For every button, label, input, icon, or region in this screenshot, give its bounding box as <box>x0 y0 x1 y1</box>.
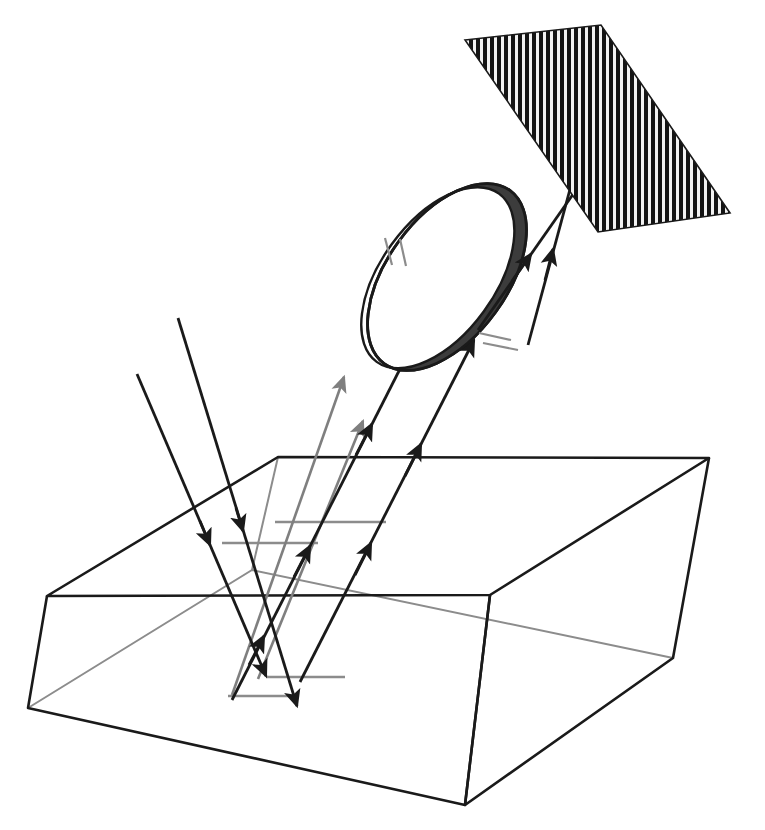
optical-diagram-figure <box>0 0 765 830</box>
objective-lens <box>330 155 570 399</box>
optical-diagram-canvas <box>0 0 765 830</box>
